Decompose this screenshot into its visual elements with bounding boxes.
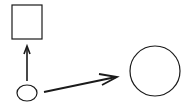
square-node <box>12 5 42 39</box>
small-ellipse-node <box>17 85 37 101</box>
arrow-ellipse-to-circle <box>44 74 117 92</box>
diagram-canvas <box>0 0 194 108</box>
arrow-ellipse-to-square <box>24 46 30 81</box>
large-circle-node <box>130 46 180 96</box>
